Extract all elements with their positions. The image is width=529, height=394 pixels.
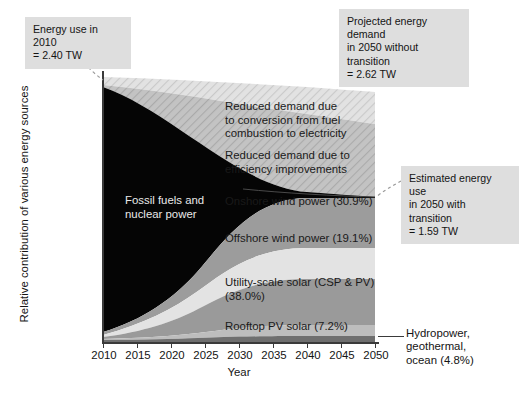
plot-area	[103, 77, 375, 342]
y-axis-line	[102, 71, 104, 342]
x-tick-2040	[307, 343, 308, 348]
x-tick-label-2045: 2045	[329, 349, 354, 361]
x-tick-label-2030: 2030	[227, 349, 252, 361]
x-tick-2020	[171, 343, 172, 348]
x-tick-2050	[375, 343, 376, 348]
x-tick-label-2035: 2035	[261, 349, 286, 361]
leader-estimated-2050	[376, 181, 401, 197]
x-axis-title: Year	[0, 366, 478, 378]
x-tick-2010	[103, 343, 104, 348]
band-label-hydropower: Hydropower, geothermal, ocean (4.8%)	[406, 327, 474, 367]
callout-estimated-use-2050: Estimated energy use in 2050 with transi…	[401, 166, 519, 244]
y-axis-title: Relative contribution of various energy …	[18, 84, 30, 324]
x-tick-label-2015: 2015	[125, 349, 150, 361]
x-tick-label-2020: 2020	[159, 349, 184, 361]
x-tick-2035	[273, 343, 274, 348]
x-tick-2025	[205, 343, 206, 348]
x-axis-line	[102, 342, 379, 344]
stacked-area-svg	[103, 77, 375, 342]
x-tick-2030	[239, 343, 240, 348]
x-tick-2045	[341, 343, 342, 348]
hydropower-leader-line	[378, 336, 404, 337]
energy-transition-chart: 2010 2015 2020 2025 2030 2035 2040 2045 …	[0, 0, 529, 394]
callout-projected-demand-2050: Projected energy demand in 2050 without …	[339, 9, 469, 87]
x-tick-label-2010: 2010	[91, 349, 116, 361]
x-tick-2015	[137, 343, 138, 348]
x-tick-label-2050: 2050	[363, 349, 388, 361]
callout-energy-use-2010: Energy use in 2010 = 2.40 TW	[25, 17, 131, 69]
x-tick-label-2040: 2040	[295, 349, 320, 361]
x-tick-label-2025: 2025	[193, 349, 218, 361]
